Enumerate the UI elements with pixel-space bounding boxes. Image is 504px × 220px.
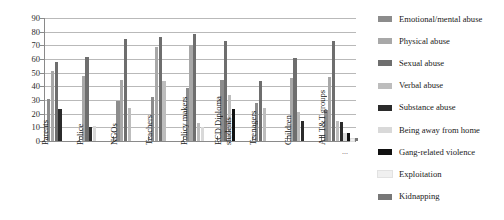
- legend-item[interactable]: Exploitation: [378, 163, 504, 185]
- bar: [197, 123, 200, 141]
- legend-item[interactable]: Gang-related violence: [378, 141, 504, 163]
- bar: [162, 81, 165, 141]
- bar: [332, 41, 335, 141]
- bar: [155, 47, 158, 141]
- y-tick-80: 80: [18, 27, 40, 36]
- axis-ellipsis: ...: [342, 147, 348, 156]
- legend-label: Emotional/mental abuse: [399, 15, 482, 24]
- bar: [347, 133, 350, 141]
- bar: [189, 45, 192, 141]
- bar: [297, 112, 300, 141]
- category-label-wrap: Police: [79, 145, 114, 217]
- legend-swatch: [378, 60, 392, 66]
- legend-swatch: [378, 83, 392, 89]
- category-label-wrap: NGOs: [113, 145, 148, 217]
- bar: [343, 133, 346, 141]
- legend-item[interactable]: Emotional/mental abuse: [378, 8, 504, 30]
- bar: [55, 62, 58, 141]
- bar: [301, 121, 304, 142]
- category-label: Children: [284, 115, 293, 145]
- category-label-wrap: Teenagers: [252, 145, 287, 217]
- bar: [355, 138, 358, 141]
- bar: [89, 127, 92, 141]
- legend-item[interactable]: Being away from home: [378, 119, 504, 141]
- y-tick-20: 20: [18, 109, 40, 118]
- x-axis-line: [44, 141, 356, 142]
- y-axis-tick-labels: 9080706050403020100: [14, 18, 40, 141]
- bar: [293, 58, 296, 141]
- legend-label: Exploitation: [399, 170, 442, 179]
- category-label: NGOs: [110, 123, 119, 145]
- category-label-wrap: All T&T groups: [321, 145, 356, 217]
- bar: [159, 37, 162, 141]
- legend-swatch: [378, 105, 392, 111]
- legend: Emotional/mental abusePhysical abuseSexu…: [378, 8, 504, 216]
- category-label-wrap: Teachers: [148, 145, 183, 217]
- bar: [193, 34, 196, 141]
- bar: [263, 108, 266, 141]
- bar: [51, 71, 54, 141]
- category-label-wrap: Parents: [44, 145, 79, 217]
- bar: [85, 57, 88, 141]
- legend-label: Verbal abuse: [399, 81, 443, 90]
- legend-item[interactable]: Verbal abuse: [378, 75, 504, 97]
- category-label-wrap: Policy makers: [183, 145, 218, 217]
- legend-item[interactable]: Kidnapping: [378, 186, 504, 208]
- legend-label: Being away from home: [399, 126, 480, 135]
- legend-item[interactable]: Sexual abuse: [378, 52, 504, 74]
- y-tick-90: 90: [18, 14, 40, 23]
- bar: [124, 39, 127, 142]
- legend-item[interactable]: Physical abuse: [378, 30, 504, 52]
- bar: [58, 109, 61, 141]
- bar: [93, 126, 96, 141]
- legend-label: Substance abuse: [399, 103, 456, 112]
- y-tick-70: 70: [18, 41, 40, 50]
- legend-label: Physical abuse: [399, 37, 450, 46]
- category-label-wrap: Children: [287, 145, 322, 217]
- plot-area: 9080706050403020100 ParentsPoliceNGOsTea…: [0, 0, 372, 220]
- legend-label: Gang-related violence: [399, 148, 475, 157]
- legend-item[interactable]: Substance abuse: [378, 97, 504, 119]
- bar: [120, 80, 123, 141]
- chart-container: 9080706050403020100 ParentsPoliceNGOsTea…: [0, 0, 504, 220]
- legend-label: Sexual abuse: [399, 59, 444, 68]
- category-label: All T&T groups: [318, 90, 327, 145]
- bar: [128, 108, 131, 141]
- legend-swatch: [378, 16, 392, 22]
- category-label: Teenagers: [249, 111, 258, 145]
- y-tick-50: 50: [18, 68, 40, 77]
- bar: [351, 139, 354, 141]
- category-label: Policy makers: [180, 97, 189, 145]
- bars-layer: [44, 18, 356, 141]
- y-tick-0: 0: [18, 137, 40, 146]
- legend-swatch: [378, 194, 392, 200]
- bar: [328, 77, 331, 141]
- bar: [201, 127, 204, 141]
- category-label-wrap: ECD Diplomastudents: [217, 145, 252, 217]
- y-tick-40: 40: [18, 82, 40, 91]
- bar: [340, 122, 343, 141]
- legend-label: Kidnapping: [399, 192, 440, 201]
- bar: [259, 81, 262, 141]
- category-label: students: [224, 117, 234, 145]
- category-label: Police: [76, 124, 85, 145]
- legend-swatch: [378, 38, 392, 44]
- category-label: Teachers: [145, 115, 154, 145]
- y-tick-60: 60: [18, 55, 40, 64]
- bar: [336, 121, 339, 141]
- legend-swatch: [378, 171, 392, 177]
- legend-swatch: [378, 149, 392, 155]
- legend-swatch: [378, 127, 392, 133]
- category-label: Parents: [41, 120, 50, 145]
- y-tick-30: 30: [18, 96, 40, 105]
- y-tick-10: 10: [18, 123, 40, 132]
